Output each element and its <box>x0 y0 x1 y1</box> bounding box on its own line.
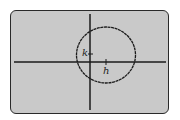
graph-canvas <box>0 0 180 120</box>
h-label: h <box>103 66 109 76</box>
k-label: k <box>82 48 88 58</box>
